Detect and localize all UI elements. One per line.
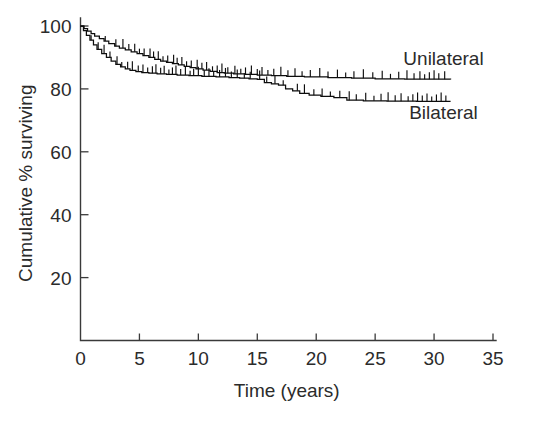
y-tick-label-60: 60 <box>50 142 71 163</box>
x-tick-label-20: 20 <box>306 348 327 369</box>
x-axis-title: Time (years) <box>234 380 340 401</box>
x-tick-label-15: 15 <box>247 348 268 369</box>
series-label-bilateral: Bilateral <box>409 102 478 123</box>
y-axis-title: Cumulative % surviving <box>15 85 36 282</box>
y-tick-label-80: 80 <box>50 79 71 100</box>
series-labels-group: UnilateralBilateral <box>403 48 483 122</box>
figure-container: 0510152025303520406080100 UnilateralBila… <box>0 0 558 425</box>
km-curves-group <box>81 26 451 101</box>
x-tick-label-10: 10 <box>188 348 209 369</box>
y-tick-label-100: 100 <box>40 16 72 37</box>
x-tick-label-35: 35 <box>482 348 503 369</box>
censor-group-bilateral <box>91 35 446 101</box>
series-label-unilateral: Unilateral <box>403 48 483 69</box>
axis-titles-group: Time (years)Cumulative % surviving <box>15 85 340 401</box>
y-tick-label-20: 20 <box>50 268 71 289</box>
km-curve-bilateral <box>81 26 451 101</box>
x-tick-label-25: 25 <box>365 348 386 369</box>
x-tick-label-30: 30 <box>424 348 445 369</box>
y-tick-label-40: 40 <box>50 205 71 226</box>
tick-marks-group <box>81 26 494 341</box>
survival-chart: 0510152025303520406080100 UnilateralBila… <box>0 0 558 425</box>
x-tick-label-0: 0 <box>75 348 86 369</box>
censor-marks-group <box>91 35 446 101</box>
x-tick-label-5: 5 <box>134 348 145 369</box>
